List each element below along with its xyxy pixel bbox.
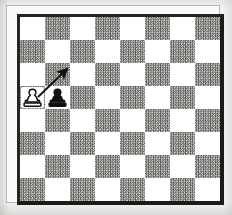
board-square-7-3[interactable] bbox=[195, 86, 220, 109]
black-pawn-icon bbox=[48, 87, 67, 108]
board-square-6-2[interactable] bbox=[170, 63, 195, 86]
board-square-0-0[interactable] bbox=[20, 17, 45, 40]
board-square-7-0[interactable] bbox=[195, 17, 220, 40]
board-square-2-0[interactable] bbox=[70, 17, 95, 40]
board-square-4-5[interactable] bbox=[120, 132, 145, 155]
board-square-1-7[interactable] bbox=[45, 178, 70, 201]
board-square-3-4[interactable] bbox=[95, 109, 120, 132]
board-square-4-1[interactable] bbox=[120, 40, 145, 63]
board-square-5-3[interactable] bbox=[145, 86, 170, 109]
board-square-0-5[interactable] bbox=[20, 132, 45, 155]
board-square-2-3[interactable] bbox=[70, 86, 95, 109]
board-square-2-5[interactable] bbox=[70, 132, 95, 155]
board-square-0-4[interactable] bbox=[20, 109, 45, 132]
board-square-5-1[interactable] bbox=[145, 40, 170, 63]
board-square-1-1[interactable] bbox=[45, 40, 70, 63]
board-square-4-2[interactable] bbox=[120, 63, 145, 86]
board-square-3-0[interactable] bbox=[95, 17, 120, 40]
board-square-3-3[interactable] bbox=[95, 86, 120, 109]
board-square-6-7[interactable] bbox=[170, 178, 195, 201]
board-square-1-0[interactable] bbox=[45, 17, 70, 40]
board-square-1-5[interactable] bbox=[45, 132, 70, 155]
board-square-7-5[interactable] bbox=[195, 132, 220, 155]
board-square-7-2[interactable] bbox=[195, 63, 220, 86]
board-square-6-3[interactable] bbox=[170, 86, 195, 109]
board-square-1-2[interactable] bbox=[45, 63, 70, 86]
board-square-7-1[interactable] bbox=[195, 40, 220, 63]
board-square-7-6[interactable] bbox=[195, 155, 220, 178]
board-square-2-7[interactable] bbox=[70, 178, 95, 201]
board-square-2-2[interactable] bbox=[70, 63, 95, 86]
board-square-3-1[interactable] bbox=[95, 40, 120, 63]
board-square-5-6[interactable] bbox=[145, 155, 170, 178]
chess-board[interactable] bbox=[20, 17, 220, 201]
board-square-0-7[interactable] bbox=[20, 178, 45, 201]
board-square-2-6[interactable] bbox=[70, 155, 95, 178]
diagram-frame bbox=[6, 5, 220, 203]
board-square-6-6[interactable] bbox=[170, 155, 195, 178]
board-square-0-2[interactable] bbox=[20, 63, 45, 86]
board-square-6-4[interactable] bbox=[170, 109, 195, 132]
board-square-2-4[interactable] bbox=[70, 109, 95, 132]
board-square-5-2[interactable] bbox=[145, 63, 170, 86]
board-square-6-1[interactable] bbox=[170, 40, 195, 63]
board-square-5-0[interactable] bbox=[145, 17, 170, 40]
board-square-1-6[interactable] bbox=[45, 155, 70, 178]
board-square-4-0[interactable] bbox=[120, 17, 145, 40]
board-square-4-7[interactable] bbox=[120, 178, 145, 201]
white-pawn[interactable] bbox=[20, 86, 45, 109]
board-outer-border bbox=[17, 14, 224, 205]
white-pawn-icon bbox=[23, 87, 42, 108]
board-square-5-4[interactable] bbox=[145, 109, 170, 132]
board-square-3-5[interactable] bbox=[95, 132, 120, 155]
board-square-7-7[interactable] bbox=[195, 178, 220, 201]
board-square-4-4[interactable] bbox=[120, 109, 145, 132]
black-pawn[interactable] bbox=[45, 86, 70, 109]
board-square-6-0[interactable] bbox=[170, 17, 195, 40]
board-square-0-6[interactable] bbox=[20, 155, 45, 178]
board-square-3-6[interactable] bbox=[95, 155, 120, 178]
scanned-page-background bbox=[0, 0, 232, 215]
board-square-7-4[interactable] bbox=[195, 109, 220, 132]
board-square-1-4[interactable] bbox=[45, 109, 70, 132]
board-square-3-2[interactable] bbox=[95, 63, 120, 86]
board-square-4-6[interactable] bbox=[120, 155, 145, 178]
board-square-5-5[interactable] bbox=[145, 132, 170, 155]
board-square-0-1[interactable] bbox=[20, 40, 45, 63]
board-square-2-1[interactable] bbox=[70, 40, 95, 63]
board-square-5-7[interactable] bbox=[145, 178, 170, 201]
board-square-6-5[interactable] bbox=[170, 132, 195, 155]
board-square-4-3[interactable] bbox=[120, 86, 145, 109]
board-square-3-7[interactable] bbox=[95, 178, 120, 201]
